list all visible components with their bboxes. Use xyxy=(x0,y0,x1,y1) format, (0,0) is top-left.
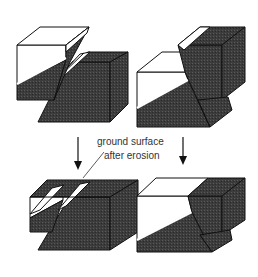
panel-top-left xyxy=(17,27,128,122)
panel-bottom-right xyxy=(137,178,245,252)
annotation-leader-line xyxy=(83,152,104,178)
panel-bottom-left xyxy=(30,180,138,250)
arrow-right-head xyxy=(179,156,187,165)
panel-top-right xyxy=(137,27,245,127)
arrow-left-head xyxy=(74,161,82,170)
annotation-line-2: after erosion xyxy=(104,150,160,161)
fault-erosion-diagram: ground surface after erosion xyxy=(0,0,258,277)
downthrown-block-side xyxy=(110,52,128,122)
annotation-line-1: ground surface xyxy=(97,136,164,147)
